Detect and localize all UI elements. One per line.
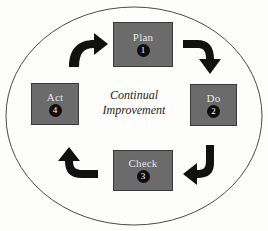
arrow-check-to-act-icon bbox=[58, 147, 98, 178]
stage-badge-plan: 1 bbox=[137, 44, 150, 57]
stage-label-check: Check bbox=[128, 158, 157, 169]
stage-badge-do: 2 bbox=[207, 105, 220, 118]
arrow-plan-to-do-icon bbox=[183, 40, 221, 74]
stage-box-check[interactable]: Check 3 bbox=[113, 150, 173, 191]
stage-badge-act: 4 bbox=[49, 104, 62, 117]
stage-label-act: Act bbox=[47, 92, 63, 103]
stage-label-plan: Plan bbox=[133, 32, 153, 43]
pdca-cycle-diagram: Plan 1 Do 2 Check 3 Act 4 Continual Impr… bbox=[0, 0, 268, 231]
arrow-do-to-check-icon bbox=[183, 145, 214, 185]
stage-box-act[interactable]: Act 4 bbox=[31, 83, 79, 125]
center-caption: Continual Improvement bbox=[84, 88, 184, 118]
stage-badge-check: 3 bbox=[137, 170, 150, 183]
center-caption-line-2: Improvement bbox=[84, 103, 184, 118]
center-caption-line-1: Continual bbox=[84, 88, 184, 103]
stage-box-do[interactable]: Do 2 bbox=[190, 84, 237, 126]
stage-box-plan[interactable]: Plan 1 bbox=[113, 22, 173, 67]
stage-label-do: Do bbox=[207, 93, 221, 104]
arrow-act-to-plan-icon bbox=[69, 33, 108, 67]
